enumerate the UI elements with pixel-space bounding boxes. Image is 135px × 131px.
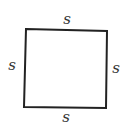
label-bottom: s — [62, 108, 70, 126]
label-top: s — [63, 10, 71, 28]
label-left: s — [8, 56, 16, 74]
square-diagram: s s s s — [0, 0, 135, 131]
square-shape — [24, 29, 107, 108]
label-right: s — [112, 59, 120, 77]
